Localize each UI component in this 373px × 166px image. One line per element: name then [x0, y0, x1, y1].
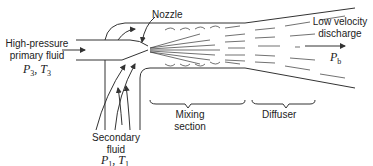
pb-subscript: b — [337, 57, 341, 66]
t1-symbol: T — [118, 153, 125, 166]
primary-pipe-top — [76, 40, 148, 46]
primary-state-label: P3, T3 — [12, 63, 62, 80]
t3-symbol: T — [40, 62, 47, 76]
mixing-line-2: section — [168, 121, 212, 133]
t1-subscript: 1 — [125, 160, 129, 166]
nozzle-label: Nozzle — [152, 9, 183, 21]
discharge-line-1: Low velocity — [308, 16, 372, 28]
ejector-diagram: High-pressure primary fluid P3, T3 Nozzl… — [0, 0, 373, 166]
secondary-state-label: P1, T1 — [90, 154, 140, 166]
t3-subscript: 3 — [47, 69, 51, 78]
mixing-line-1: Mixing — [168, 109, 212, 121]
primary-pipe-bottom — [76, 50, 148, 60]
p1-subscript: 1 — [108, 160, 112, 166]
discharge-state-label: Pb — [330, 51, 341, 68]
discharge-label: Low velocity discharge — [308, 16, 372, 40]
p3-subscript: 3 — [30, 69, 34, 78]
primary-fluid-line-2: primary fluid — [2, 50, 72, 62]
secondary-line-1: Secondary — [86, 132, 146, 144]
primary-fluid-label: High-pressure primary fluid — [2, 38, 72, 62]
diffuser-label: Diffuser — [262, 109, 296, 121]
mixing-bracket — [150, 100, 245, 108]
mixing-section-label: Mixing section — [168, 109, 212, 133]
diffuser-bracket — [252, 100, 315, 108]
primary-fluid-line-1: High-pressure — [2, 38, 72, 50]
discharge-line-2: discharge — [308, 28, 372, 40]
